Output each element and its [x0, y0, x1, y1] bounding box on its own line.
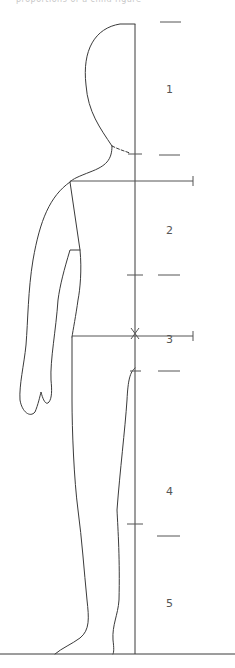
- torso-outline: [70, 182, 81, 337]
- head-outline: [85, 24, 135, 146]
- segment-label-4: 4: [166, 485, 173, 498]
- chin-dashed-line: [112, 146, 130, 153]
- back-leg-outline: [55, 337, 88, 654]
- segment-label-3: 3: [166, 333, 173, 346]
- front-leg-outline: [113, 368, 135, 654]
- segment-label-1: 1: [166, 83, 173, 96]
- proportion-diagram: 1 2 3 4 5: [0, 0, 235, 668]
- segment-label-2: 2: [166, 224, 173, 237]
- arm-outline: [20, 182, 80, 414]
- segment-label-5: 5: [166, 597, 173, 610]
- neck-outline: [70, 146, 112, 182]
